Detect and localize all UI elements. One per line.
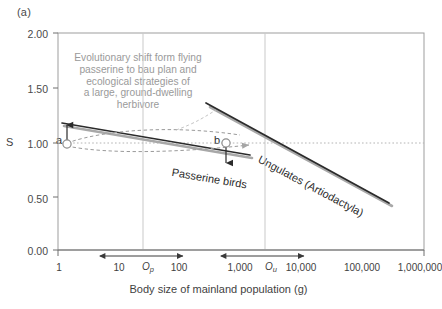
x-axis-ticks: [58, 250, 424, 256]
plot-frame: [58, 33, 424, 250]
y-axis-ticks: [53, 33, 58, 250]
data-point-b: [222, 139, 230, 147]
data-point-a: [63, 140, 71, 148]
annotation-leader-line: [176, 110, 216, 130]
